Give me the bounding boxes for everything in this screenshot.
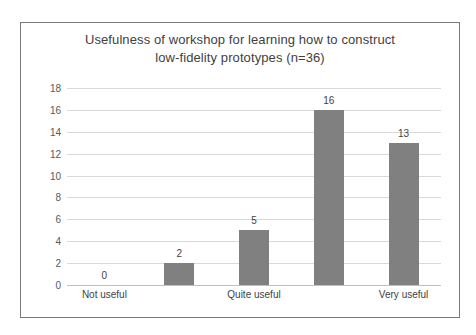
chart-title-line-1: Usefulness of workshop for learning how …	[21, 31, 459, 49]
gridline	[67, 110, 441, 111]
x-axis-tick-label: Not useful	[44, 289, 164, 300]
bar[interactable]	[314, 110, 344, 285]
bar[interactable]	[239, 230, 269, 285]
plot-area: 0251613	[67, 88, 441, 285]
bar-value-label: 2	[149, 248, 209, 259]
bar-value-label: 5	[224, 215, 284, 226]
bar-value-label: 13	[374, 128, 434, 139]
y-axis-tick-label: 6	[27, 214, 61, 225]
y-axis-tick-label: 10	[27, 170, 61, 181]
x-axis-tick-label: Very useful	[344, 289, 464, 300]
bar-value-label: 16	[299, 95, 359, 106]
chart-title-line-2: low-fidelity prototypes (n=36)	[21, 49, 459, 67]
axis-baseline	[67, 285, 441, 286]
gridline	[67, 176, 441, 177]
bar[interactable]	[389, 143, 419, 285]
bar[interactable]	[164, 263, 194, 285]
y-axis-tick-label: 12	[27, 148, 61, 159]
y-axis-tick-label: 2	[27, 258, 61, 269]
gridline	[67, 197, 441, 198]
y-axis-tick-label: 4	[27, 236, 61, 247]
gridline	[67, 154, 441, 155]
chart-container: Usefulness of workshop for learning how …	[20, 22, 460, 318]
y-axis-tick-label: 18	[27, 83, 61, 94]
y-axis-tick-label: 8	[27, 192, 61, 203]
x-axis-tick-label: Quite useful	[194, 289, 314, 300]
chart-title: Usefulness of workshop for learning how …	[21, 31, 459, 67]
y-axis: 024681012141618	[27, 88, 61, 285]
y-axis-tick-label: 14	[27, 126, 61, 137]
gridline	[67, 88, 441, 89]
y-axis-tick-label: 16	[27, 104, 61, 115]
bar-value-label: 0	[74, 270, 134, 281]
